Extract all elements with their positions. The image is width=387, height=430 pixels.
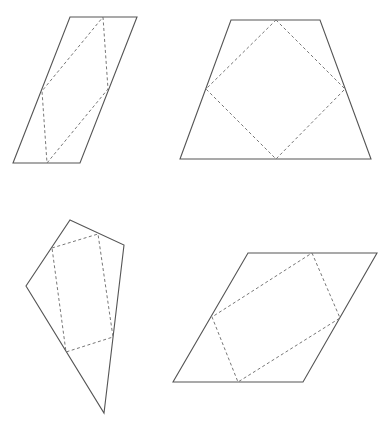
inner-midpoint-quadrilateral: [206, 20, 345, 159]
outer-quadrilateral: [26, 220, 124, 413]
shape-parallelogram-wide: [173, 253, 377, 382]
shape-trapezoid: [180, 20, 371, 159]
inner-midpoint-quadrilateral: [212, 253, 340, 382]
outer-quadrilateral: [180, 20, 371, 159]
inner-midpoint-quadrilateral: [42, 17, 108, 163]
outer-quadrilateral: [13, 17, 137, 163]
diagram-canvas: [0, 0, 387, 430]
outer-quadrilateral: [173, 253, 377, 382]
shape-quadrilateral-kite: [26, 220, 124, 413]
shape-parallelogram-tall: [13, 17, 137, 163]
inner-midpoint-quadrilateral: [52, 234, 113, 352]
